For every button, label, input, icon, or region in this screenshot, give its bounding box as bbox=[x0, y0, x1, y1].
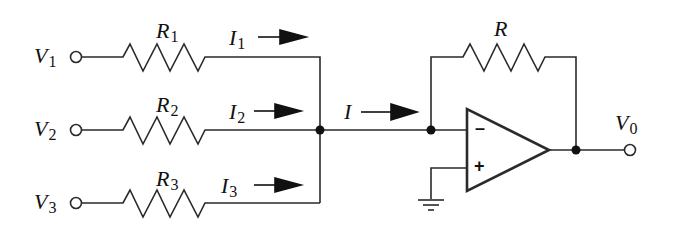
resistor-label-r1: R1 bbox=[156, 20, 178, 45]
current-label-i2: I2 bbox=[229, 101, 245, 126]
inverting-input-sign: – bbox=[475, 119, 485, 137]
current-label-i1: I1 bbox=[229, 27, 245, 52]
arrow-right-icon bbox=[361, 104, 417, 120]
current-label-i3: I3 bbox=[221, 175, 237, 200]
ground-icon bbox=[418, 200, 444, 210]
terminal-v0-icon bbox=[625, 145, 636, 156]
resistor-r2-icon bbox=[82, 117, 467, 144]
circuit-schematic bbox=[0, 0, 673, 231]
terminal-v2-icon bbox=[71, 125, 82, 136]
feedback-resistor-icon bbox=[431, 44, 576, 150]
terminal-v1-icon bbox=[71, 52, 82, 63]
input-branch-3 bbox=[71, 190, 321, 217]
voltage-label-v1: V1 bbox=[34, 45, 56, 70]
input-branch-2 bbox=[71, 117, 468, 144]
summing-amplifier-diagram: V1 V2 V3 R1 R2 R3 I1 I2 I3 I R V0 – + bbox=[0, 0, 673, 231]
output-voltage-label: V0 bbox=[615, 112, 637, 137]
arrow-right-icon bbox=[254, 178, 301, 192]
arrow-right-icon bbox=[258, 30, 306, 44]
junction-dot-icon bbox=[316, 126, 325, 135]
resistor-r3-icon bbox=[82, 190, 320, 217]
junction-dot-icon bbox=[572, 146, 581, 155]
feedback-resistor-label: R bbox=[494, 18, 507, 40]
voltage-label-v2: V2 bbox=[34, 118, 56, 143]
arrow-right-icon bbox=[254, 104, 301, 118]
terminal-v3-icon bbox=[71, 198, 82, 209]
resistor-label-r2: R2 bbox=[156, 94, 178, 119]
junction-dot-icon bbox=[427, 126, 436, 135]
voltage-label-v3: V3 bbox=[34, 191, 56, 216]
input-branch-1 bbox=[71, 44, 321, 203]
sum-current-label: I bbox=[344, 101, 351, 123]
noninverting-input-sign: + bbox=[474, 157, 485, 175]
resistor-label-r3: R3 bbox=[156, 168, 178, 193]
resistor-r1-icon bbox=[82, 44, 320, 203]
